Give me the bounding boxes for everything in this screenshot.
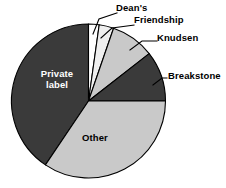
private-label-line-2: label xyxy=(33,79,81,90)
slice-label-breakstone: Breakstone xyxy=(168,70,221,81)
slice-label-deans: Dean's xyxy=(116,2,147,13)
slice-label-friendship: Friendship xyxy=(134,14,184,25)
private-label-line-1: Private xyxy=(33,68,81,79)
pie-slices xyxy=(11,24,165,178)
slice-label-knudsen: Knudsen xyxy=(157,32,198,43)
slice-label-private-label: Private label xyxy=(33,68,81,90)
pie-svg xyxy=(0,0,226,188)
slice-label-other: Other xyxy=(76,132,114,143)
pie-chart: Dean's Friendship Knudsen Breakstone Pri… xyxy=(0,0,226,188)
